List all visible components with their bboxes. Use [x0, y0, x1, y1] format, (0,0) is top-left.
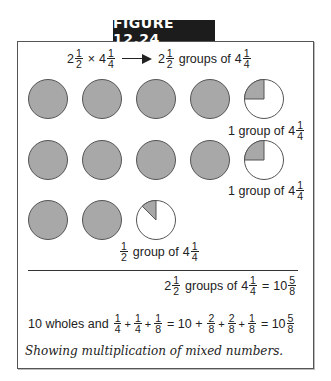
- figure-caption: Showing multiplication of mixed numbers.: [25, 344, 283, 358]
- sum-prefix: 10 wholes and: [28, 317, 109, 331]
- whole-circle: [191, 141, 230, 180]
- whole: 4: [288, 124, 295, 138]
- plus-sign: +: [239, 318, 245, 330]
- separator-line: [28, 270, 298, 271]
- fraction: 12: [172, 275, 180, 296]
- whole: 10: [273, 279, 287, 293]
- shaded-wedge: [245, 80, 265, 100]
- plus-sign: +: [218, 318, 224, 330]
- whole: 4: [288, 184, 295, 198]
- whole: 4: [183, 245, 190, 259]
- equals-text: = 10 +: [167, 317, 202, 331]
- fraction: 28: [207, 313, 215, 334]
- groups-of-text: groups of: [185, 279, 237, 293]
- whole-circle: [83, 80, 122, 119]
- whole: 2: [164, 279, 171, 293]
- fraction: 14: [296, 180, 304, 201]
- fraction: 12: [120, 241, 128, 262]
- fraction: 18: [248, 313, 256, 334]
- fraction: 14: [114, 313, 122, 334]
- fraction: 18: [154, 313, 162, 334]
- fraction: 58: [288, 275, 296, 296]
- row2-label: 1 group of 4 14: [228, 180, 305, 201]
- fraction: 28: [228, 313, 236, 334]
- label-text: 1 group of: [228, 124, 284, 138]
- fraction: 58: [287, 313, 295, 334]
- whole-circle: [137, 80, 176, 119]
- fraction: 14: [249, 275, 257, 296]
- whole-circle: [29, 80, 68, 119]
- whole-circle: [137, 141, 176, 180]
- figure-title: FIGURE 12.24: [113, 20, 215, 41]
- label-text: group of: [133, 245, 179, 259]
- whole-circle: [83, 141, 122, 180]
- whole-circle: [29, 201, 68, 240]
- equals-sign: =: [262, 279, 269, 293]
- whole-circle: [83, 201, 122, 240]
- equals-text: = 10: [261, 317, 286, 331]
- whole-circle: [191, 80, 230, 119]
- row1-label: 1 group of 4 14: [228, 120, 305, 141]
- fraction: 14: [296, 120, 304, 141]
- label-text: 1 group of: [228, 184, 284, 198]
- whole-circle: [29, 141, 68, 180]
- fraction: 14: [191, 241, 199, 262]
- plus-sign: +: [145, 318, 151, 330]
- summary-line: 2 12 groups of 4 14 = 10 58: [164, 275, 297, 296]
- sum-line: 10 wholes and 14+14+18 = 10 + 28+28+18 =…: [28, 313, 295, 334]
- row3-label: 12 group of 4 14: [119, 241, 200, 262]
- plus-sign: +: [124, 318, 130, 330]
- shaded-wedge: [245, 141, 265, 161]
- whole: 4: [241, 279, 248, 293]
- fraction: 14: [134, 313, 142, 334]
